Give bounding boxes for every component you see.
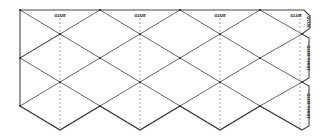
glue-label: GLUE	[290, 13, 302, 18]
fold-lines	[60, 14, 300, 130]
corner-tab-label: GLUE	[306, 16, 311, 28]
triangle-grid	[20, 10, 302, 130]
glue-label: GLUE	[214, 13, 226, 18]
net-diagram: GLUE GLUE GLUE GLUE GLUE GLUE FIRST GLUE…	[0, 0, 321, 140]
glue-label: GLUE	[54, 13, 66, 18]
side-tab-label: GLUE FIRST	[306, 93, 311, 119]
vertices	[19, 9, 303, 107]
side-tab-label: GLUE FIRST	[306, 45, 311, 71]
outline	[20, 10, 310, 130]
glue-label: GLUE	[134, 13, 146, 18]
glue-labels: GLUE GLUE GLUE GLUE GLUE GLUE FIRST GLUE…	[54, 13, 311, 119]
